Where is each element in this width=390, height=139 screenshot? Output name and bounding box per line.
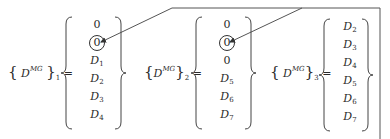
right-brace: }	[305, 63, 315, 81]
entry: D7	[210, 106, 244, 124]
left-brace: {	[144, 63, 154, 81]
circle-highlight: 0	[219, 35, 235, 51]
entry: 0	[210, 16, 244, 34]
superscript: MG	[292, 65, 305, 73]
superscript: MG	[162, 65, 175, 73]
equation-1-vector: 0 0 D1 D2 D3 D4	[80, 16, 114, 124]
circle-highlight: 0	[89, 35, 105, 51]
left-brace: {	[270, 63, 280, 81]
entry-circled: 0	[80, 34, 114, 52]
entry-circled: 0	[210, 34, 244, 52]
equation-1-right-curly-brace	[113, 16, 129, 131]
entry: D1	[80, 52, 114, 70]
equation-1-left-curly-brace	[60, 16, 76, 131]
equation-3-right-curly-brace	[360, 18, 376, 133]
symbol: D	[283, 67, 292, 80]
entry: 0	[80, 16, 114, 34]
entry: 0	[210, 52, 244, 70]
right-brace: }	[175, 63, 185, 81]
entry: D6	[210, 88, 244, 106]
entry: D5	[210, 70, 244, 88]
entry: D2	[80, 70, 114, 88]
equation-3-left-curly-brace	[318, 18, 334, 133]
subscript: 2	[185, 74, 189, 82]
entry: D4	[80, 106, 114, 124]
vector-diagram: { DMG }1 = 0 0 D1 D2 D3 D4 {DMG}2 = 0 0 …	[0, 0, 390, 139]
symbol: D	[21, 67, 30, 80]
entry: D3	[80, 88, 114, 106]
equation-2-vector: 0 0 0 D5 D6 D7	[210, 16, 244, 124]
superscript: MG	[30, 65, 43, 73]
left-brace: {	[8, 63, 18, 81]
right-brace: }	[46, 63, 56, 81]
equation-2-right-curly-brace	[243, 16, 259, 131]
equation-2-left-curly-brace	[190, 16, 206, 131]
